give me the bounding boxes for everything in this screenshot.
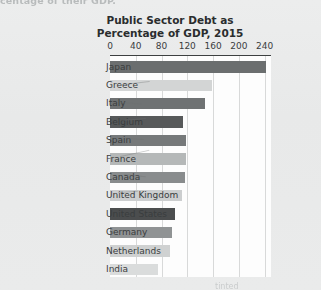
bar-row: Netherlands	[110, 242, 271, 260]
bar-row: India	[110, 260, 271, 278]
x-tick-label-0: 0	[107, 41, 113, 51]
bar-row: Germany	[110, 224, 271, 242]
bar-row: Japan	[110, 58, 271, 76]
x-tick-label-200: 200	[230, 41, 247, 51]
chart-title-line2: Percentage of GDP, 2015	[60, 27, 280, 40]
bar-row: Belgium	[110, 113, 271, 131]
chart-title-line1: Public Sector Debt as	[106, 14, 233, 26]
plot-area: JapanGreeceItalyBelgiumSpainFranceCanada…	[110, 56, 271, 277]
x-tick-label-240: 240	[256, 41, 273, 51]
x-tick-label-40: 40	[130, 41, 141, 51]
bottom-smudge-label: tinted	[215, 282, 239, 289]
x-tick-label-160: 160	[204, 41, 221, 51]
bar-row: Greece	[110, 76, 271, 94]
x-tick-label-80: 80	[156, 41, 167, 51]
clipped-body-text-label: centage of their GDP.	[0, 0, 200, 6]
x-axis-tick-labels: 04080120160200240	[0, 41, 321, 53]
bar-row: United Kingdom	[110, 187, 271, 205]
bar-row: Spain	[110, 132, 271, 150]
x-tick-label-120: 120	[179, 41, 196, 51]
bar-chart: Public Sector Debt as Percentage of GDP,…	[0, 10, 321, 282]
chart-title: Public Sector Debt as Percentage of GDP,…	[60, 14, 280, 39]
bottom-smudge-text: tinted	[215, 282, 310, 289]
bar-japan	[110, 61, 266, 72]
bar-row: Canada	[110, 168, 271, 186]
bar-row: United States	[110, 205, 271, 223]
